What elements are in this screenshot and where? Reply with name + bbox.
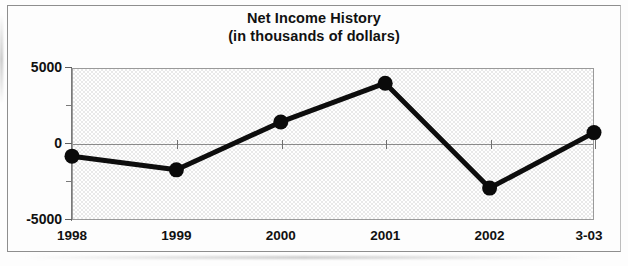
y-axis-line bbox=[71, 68, 72, 221]
x-axis-label: 1999 bbox=[136, 228, 216, 243]
x-axis-tick bbox=[491, 140, 492, 149]
chart-subtitle: (in thousands of dollars) bbox=[7, 27, 621, 45]
x-axis-label: 2002 bbox=[450, 228, 530, 243]
x-axis-tick bbox=[177, 140, 178, 149]
y-axis-label: 5000 bbox=[2, 59, 62, 75]
x-axis-tick bbox=[282, 140, 283, 149]
x-axis-label: 2001 bbox=[345, 228, 425, 243]
scan-artifact-bottom bbox=[24, 256, 584, 259]
x-axis-tick bbox=[386, 140, 387, 149]
chart-title: Net Income History bbox=[7, 9, 621, 27]
y-axis-tick-minor bbox=[66, 181, 72, 182]
plot-inner bbox=[73, 69, 593, 219]
y-axis-tick-major bbox=[65, 143, 72, 144]
x-axis-tick bbox=[595, 140, 596, 149]
x-axis-label: 1998 bbox=[32, 228, 112, 243]
x-axis-label: 3-03 bbox=[549, 228, 628, 243]
y-axis-label: -5000 bbox=[2, 211, 62, 227]
y-axis-tick-minor bbox=[66, 105, 72, 106]
chart-page: Net Income History (in thousands of doll… bbox=[0, 0, 628, 266]
chart-title-block: Net Income History (in thousands of doll… bbox=[7, 9, 621, 45]
plot-area bbox=[72, 68, 594, 220]
y-axis-tick-major bbox=[65, 219, 72, 220]
y-axis-tick-major bbox=[65, 67, 72, 68]
zero-gridline bbox=[73, 144, 593, 145]
y-axis-label: 0 bbox=[2, 135, 62, 151]
x-axis-label: 2000 bbox=[241, 228, 321, 243]
